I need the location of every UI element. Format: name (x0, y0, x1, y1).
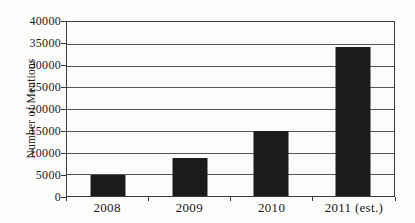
bar-2008 (90, 175, 125, 196)
y-tick-mark (61, 131, 66, 132)
y-tick-label: 30000 (0, 58, 61, 72)
y-tick-label: 40000 (0, 14, 61, 28)
bar-2011-est (336, 47, 371, 196)
y-tick-mark (61, 87, 66, 88)
y-tick-mark (61, 21, 66, 22)
bar-2009 (172, 158, 207, 196)
y-tick-label: 25000 (0, 80, 61, 94)
x-tick-mark (395, 197, 396, 201)
y-tick-mark (61, 109, 66, 110)
y-tick-label: 15000 (0, 124, 61, 138)
y-tick-label: 5000 (0, 168, 61, 182)
x-tick-mark (148, 197, 149, 201)
bar-chart-figure: Number of Mentions 050001000015000200002… (0, 0, 415, 223)
y-tick-mark (61, 65, 66, 66)
x-tick-mark (312, 197, 313, 201)
y-tick-label: 20000 (0, 102, 61, 116)
y-tick-mark (61, 153, 66, 154)
bar-2010 (254, 131, 289, 196)
y-tick-label: 10000 (0, 146, 61, 160)
y-tick-label: 35000 (0, 36, 61, 50)
x-axis-label: 2011 (est.) (304, 200, 404, 215)
y-tick-label: 0 (0, 190, 61, 204)
x-tick-mark (66, 197, 67, 201)
y-tick-mark (61, 175, 66, 176)
plot-area (66, 21, 395, 197)
x-tick-mark (230, 197, 231, 201)
y-tick-mark (61, 43, 66, 44)
gridline (67, 44, 394, 45)
